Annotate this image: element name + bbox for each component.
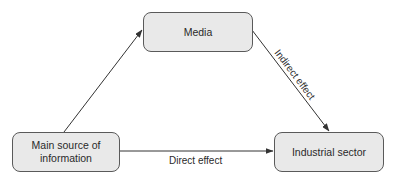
diagram-canvas: Media Main source of information Industr…: [0, 0, 395, 181]
edge-media-to-industrial: [252, 30, 329, 131]
edge-source-to-media: [64, 30, 142, 132]
node-main-source-label: Main source of information: [27, 139, 105, 165]
node-industrial-sector-label: Industrial sector: [292, 146, 366, 159]
node-media: Media: [143, 12, 253, 52]
edge-label-direct-effect: Direct effect: [169, 155, 222, 166]
node-media-label: Media: [184, 26, 213, 39]
node-industrial-sector: Industrial sector: [274, 132, 384, 172]
node-main-source: Main source of information: [12, 132, 120, 172]
